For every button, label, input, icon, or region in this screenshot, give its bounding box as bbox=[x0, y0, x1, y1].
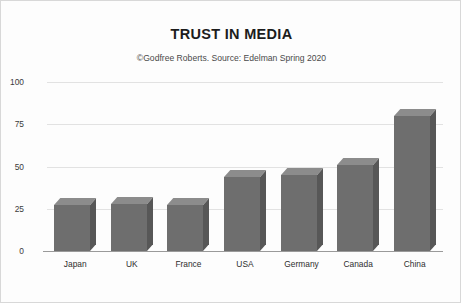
bar-top-face bbox=[167, 198, 209, 205]
y-axis-label-100: 100 bbox=[0, 77, 24, 87]
bar-front-face bbox=[337, 165, 373, 251]
bar-front-face bbox=[281, 175, 317, 251]
chart-subtitle-source: ©Godfree Roberts. Source: Edelman Spring… bbox=[1, 53, 461, 63]
x-axis-label-canada: Canada bbox=[330, 259, 387, 269]
x-axis-label-japan: Japan bbox=[47, 259, 104, 269]
bar-front-face bbox=[224, 177, 260, 251]
y-axis-label-0: 0 bbox=[0, 246, 24, 256]
bar-side-face bbox=[90, 199, 96, 251]
y-axis-label-25: 25 bbox=[0, 204, 24, 214]
bar-top-face bbox=[281, 168, 323, 175]
bar-top-face bbox=[54, 198, 96, 205]
bar-side-face bbox=[147, 197, 153, 251]
gridline-0 bbox=[47, 251, 443, 252]
bar-front-face bbox=[167, 205, 203, 251]
bars-layer bbox=[47, 82, 443, 251]
chart-title: TRUST IN MEDIA bbox=[1, 26, 461, 42]
bar-top-face bbox=[394, 109, 436, 116]
x-axis-label-uk: UK bbox=[104, 259, 161, 269]
bar-top-face bbox=[224, 170, 266, 177]
bar-canada bbox=[337, 165, 373, 251]
bar-side-face bbox=[260, 170, 266, 251]
chart-figure: TRUST IN MEDIA ©Godfree Roberts. Source:… bbox=[0, 0, 461, 303]
bar-side-face bbox=[430, 109, 436, 251]
bar-side-face bbox=[317, 168, 323, 251]
bar-germany bbox=[281, 175, 317, 251]
y-axis-label-50: 50 bbox=[0, 162, 24, 172]
bar-uk bbox=[111, 204, 147, 251]
bar-usa bbox=[224, 177, 260, 251]
plot-area: 0255075100 bbox=[47, 82, 443, 251]
x-axis-label-usa: USA bbox=[217, 259, 274, 269]
x-axis-label-france: France bbox=[160, 259, 217, 269]
x-axis-label-china: China bbox=[386, 259, 443, 269]
y-axis-tick-mark-0 bbox=[43, 251, 47, 252]
bar-china bbox=[394, 116, 430, 251]
bar-japan bbox=[54, 205, 90, 251]
bar-front-face bbox=[111, 204, 147, 251]
bar-france bbox=[167, 205, 203, 251]
bar-front-face bbox=[54, 205, 90, 251]
bar-top-face bbox=[337, 158, 379, 165]
bar-side-face bbox=[203, 199, 209, 251]
bar-top-face bbox=[111, 197, 153, 204]
x-axis-label-germany: Germany bbox=[273, 259, 330, 269]
bar-front-face bbox=[394, 116, 430, 251]
y-axis-label-75: 75 bbox=[0, 119, 24, 129]
bar-side-face bbox=[373, 158, 379, 251]
